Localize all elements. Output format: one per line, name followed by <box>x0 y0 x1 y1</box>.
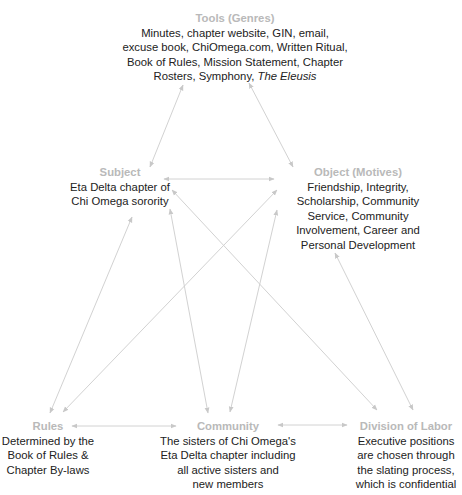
node-text-line: Chi Omega sorority <box>50 194 190 209</box>
node-text-line: Chapter By-laws <box>0 463 96 478</box>
node-division-of-labor: Division of Labor Executive positions ar… <box>350 419 462 492</box>
node-title: Object (Motives) <box>280 165 436 180</box>
arrow-object-division <box>335 253 413 410</box>
node-text-line: Involvement, Career and <box>280 223 436 238</box>
node-text-line: all active sisters and <box>148 463 308 478</box>
node-title: Rules <box>0 419 96 434</box>
node-text-line: Personal Development <box>280 238 436 253</box>
node-text-line: excuse book, ChiOmega.com, Written Ritua… <box>110 40 360 55</box>
node-text-line: new members <box>148 477 308 492</box>
node-subject: Subject Eta Delta chapter of Chi Omega s… <box>50 165 190 209</box>
node-title: Tools (Genres) <box>110 11 360 26</box>
node-text-line: Eta Delta chapter of <box>50 180 190 195</box>
node-text-line: Book of Rules & <box>0 448 96 463</box>
arrow-tools-object <box>249 83 293 167</box>
node-text-line: Minutes, chapter website, GIN, email, <box>110 26 360 41</box>
node-text-line: Service, Community <box>280 209 436 224</box>
node-text-line: the slating process, <box>350 463 462 478</box>
node-text-line: Eta Delta chapter including <box>148 448 308 463</box>
node-text-line: Friendship, Integrity, <box>280 180 436 195</box>
node-text-line: Determined by the <box>0 434 96 449</box>
node-text-line: which is confidential <box>350 477 462 492</box>
node-community: Community The sisters of Chi Omega's Eta… <box>148 419 308 492</box>
node-text-line: Rosters, Symphony, The Eleusis <box>110 69 360 84</box>
node-rules: Rules Determined by the Book of Rules & … <box>0 419 96 477</box>
node-text-italic: The Eleusis <box>257 70 316 82</box>
node-text-line: Scholarship, Community <box>280 194 436 209</box>
arrow-tools-subject <box>150 85 183 167</box>
node-text-line: Executive positions <box>350 434 462 449</box>
arrow-object-rules <box>63 190 277 412</box>
node-object: Object (Motives) Friendship, Integrity, … <box>280 165 436 252</box>
node-title: Subject <box>50 165 190 180</box>
node-tools: Tools (Genres) Minutes, chapter website,… <box>110 11 360 84</box>
node-text-line: The sisters of Chi Omega's <box>148 434 308 449</box>
node-text-line: are chosen through <box>350 448 462 463</box>
node-text-line: Book of Rules, Mission Statement, Chapte… <box>110 55 360 70</box>
arrow-object-community <box>230 210 277 412</box>
node-title: Division of Labor <box>350 419 462 434</box>
arrow-subject-community <box>170 209 208 413</box>
node-title: Community <box>148 419 308 434</box>
